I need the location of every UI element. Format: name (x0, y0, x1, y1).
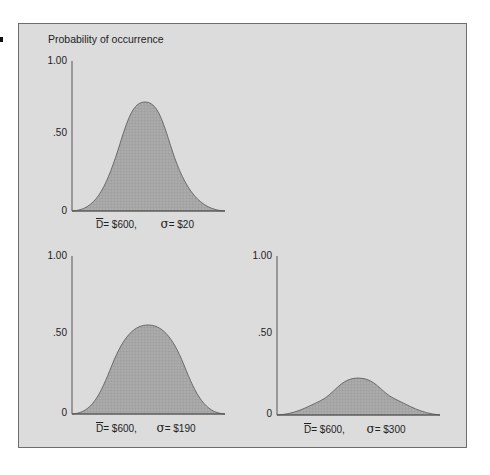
sigma-value: = $190 (165, 423, 196, 434)
y-tick-mid: .50 (43, 327, 67, 338)
y-tick-mid: .50 (43, 127, 67, 138)
distribution-area (72, 102, 225, 211)
sigma-symbol: σ (156, 421, 164, 435)
mean-value: = $600, (103, 219, 137, 230)
mean-value: = $600, (311, 424, 345, 435)
sigma-symbol: σ (366, 422, 374, 436)
y-tick-top: 1.00 (43, 55, 67, 66)
mean-value: = $600, (103, 423, 137, 434)
panel-caption: D= $600, σ= $190 (96, 421, 196, 435)
y-tick-zero: 0 (248, 408, 272, 419)
panel-caption: D= $600, σ= $20 (96, 217, 194, 231)
y-tick-top: 1.00 (43, 250, 67, 261)
chart-panel-sigma-190 (72, 256, 225, 414)
y-tick-zero: 0 (43, 205, 67, 216)
sigma-symbol: σ (160, 217, 168, 231)
chart-panel-sigma-20 (72, 61, 225, 211)
y-tick-mid: .50 (248, 327, 272, 338)
distribution-area (277, 378, 440, 415)
sigma-value: = $300 (375, 424, 406, 435)
chart-panel-sigma-300 (277, 256, 440, 415)
sigma-value: = $20 (169, 219, 194, 230)
plot-canvas (0, 0, 490, 475)
y-tick-zero: 0 (43, 407, 67, 418)
distribution-area (72, 325, 225, 414)
panel-caption: D= $600, σ= $300 (304, 422, 406, 436)
y-tick-top: 1.00 (248, 250, 272, 261)
